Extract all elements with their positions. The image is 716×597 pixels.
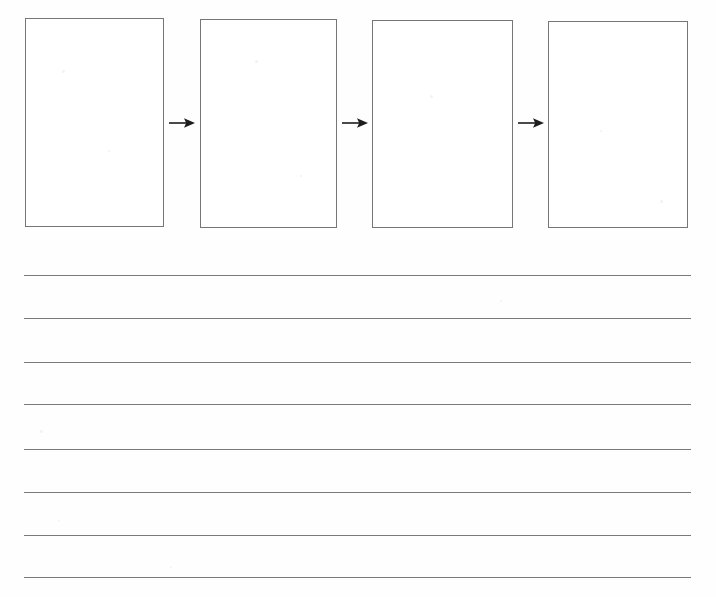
flow-box-2[interactable] xyxy=(200,19,337,228)
right-arrow-icon xyxy=(517,116,545,130)
flow-box-4[interactable] xyxy=(548,21,688,228)
right-arrow-icon-3 xyxy=(517,116,545,130)
right-arrow-icon-2 xyxy=(341,116,369,130)
writing-line-4[interactable] xyxy=(24,404,691,405)
right-arrow-icon xyxy=(341,116,369,130)
right-arrow-icon-1 xyxy=(168,116,196,130)
writing-line-7[interactable] xyxy=(24,535,691,536)
writing-line-5[interactable] xyxy=(24,449,691,450)
worksheet-page xyxy=(0,0,716,597)
flow-box-3[interactable] xyxy=(372,20,513,228)
writing-line-6[interactable] xyxy=(24,492,691,493)
writing-line-3[interactable] xyxy=(24,362,691,363)
scan-speckle xyxy=(40,430,43,433)
scan-speckle xyxy=(500,300,502,302)
sequence-flow-diagram xyxy=(0,0,716,250)
right-arrow-icon xyxy=(168,116,196,130)
writing-line-1[interactable] xyxy=(24,275,691,276)
scan-speckle xyxy=(170,566,172,568)
writing-line-2[interactable] xyxy=(24,318,691,319)
scan-speckle xyxy=(58,520,60,522)
flow-box-1[interactable] xyxy=(25,18,164,227)
writing-line-8[interactable] xyxy=(24,577,691,578)
